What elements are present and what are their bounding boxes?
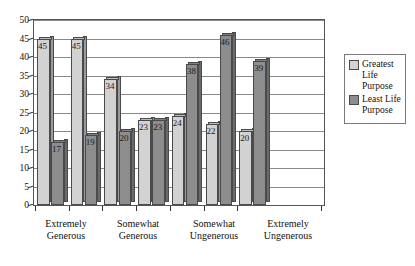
y-axis-tick-label: 45 xyxy=(3,34,29,44)
bar-value-label: 45 xyxy=(38,42,47,51)
bar-value-label: 46 xyxy=(221,38,230,47)
bar-value-label: 38 xyxy=(187,67,196,76)
bar: 46 xyxy=(220,32,233,205)
bar-value-label: 45 xyxy=(72,42,81,51)
bar: 23 xyxy=(138,117,151,205)
y-axis-tick-mark xyxy=(28,19,33,21)
bar: 17 xyxy=(51,139,64,205)
y-axis-tick-label: 40 xyxy=(3,52,29,62)
bar: 39 xyxy=(253,58,266,205)
x-axis-labels: ExtremelyGenerousSomewhatGenerousSomewha… xyxy=(20,218,350,252)
y-axis-tick-mark xyxy=(28,93,33,95)
y-axis-tick-label: 10 xyxy=(3,163,29,173)
bar: 45 xyxy=(71,36,84,206)
x-axis-tick-mark xyxy=(35,206,36,211)
legend: Greatest Life Purpose Least Life Purpose xyxy=(344,54,406,124)
legend-label-least: Least Life Purpose xyxy=(362,94,402,116)
bar: 22 xyxy=(206,121,219,205)
bar-side-face xyxy=(266,58,270,202)
bar-front-face xyxy=(104,79,117,205)
bar: 23 xyxy=(152,117,165,205)
y-axis-tick-label: 5 xyxy=(3,182,29,192)
bar-value-label: 24 xyxy=(173,119,182,128)
y-axis-tick-mark xyxy=(28,56,33,58)
x-axis-tick-mark xyxy=(69,206,70,211)
legend-label-greatest: Greatest Life Purpose xyxy=(362,59,402,92)
legend-item-least: Least Life Purpose xyxy=(349,94,402,116)
y-axis-tick-label: 50 xyxy=(3,15,29,25)
x-axis xyxy=(33,206,325,218)
bar-value-label: 17 xyxy=(52,145,61,154)
bar: 19 xyxy=(85,132,98,205)
bar-side-face xyxy=(131,128,135,202)
bar-value-label: 34 xyxy=(105,82,114,91)
bar: 20 xyxy=(239,128,252,205)
x-axis-tick-mark xyxy=(136,206,137,211)
y-axis-tick-label: 20 xyxy=(3,126,29,136)
bar-value-label: 20 xyxy=(120,134,129,143)
bar-value-label: 20 xyxy=(240,134,249,143)
y-axis-tick-mark xyxy=(28,167,33,169)
bar-front-face xyxy=(206,124,219,205)
legend-item-greatest: Greatest Life Purpose xyxy=(349,59,402,92)
legend-swatch-icon-least xyxy=(349,95,359,105)
x-axis-tick-mark xyxy=(170,206,171,211)
bars-layer: 4517451934202323243822462039 xyxy=(34,20,324,205)
bar-front-face xyxy=(152,120,165,205)
bar-front-face xyxy=(138,120,151,205)
x-axis-category-label: ExtremelyUngenerous xyxy=(242,218,334,242)
bar-side-face xyxy=(97,132,101,202)
bar: 38 xyxy=(186,61,199,205)
bar: 24 xyxy=(172,113,185,205)
y-axis-tick-label: 0 xyxy=(3,200,29,210)
bar-value-label: 23 xyxy=(153,123,162,132)
bar-value-label: 39 xyxy=(254,64,263,73)
x-axis-tick-mark xyxy=(102,206,103,211)
bar-value-label: 22 xyxy=(207,127,216,136)
y-axis-tick-label: 35 xyxy=(3,71,29,81)
bar: 34 xyxy=(104,76,117,205)
y-axis: 05101520253035404550 xyxy=(0,14,33,211)
bar-front-face xyxy=(253,61,266,205)
bar-front-face xyxy=(37,39,50,206)
bar-chart: 05101520253035404550 4517451934202323243… xyxy=(0,0,415,266)
bar: 45 xyxy=(37,36,50,206)
bar-front-face xyxy=(220,35,233,205)
legend-swatch-icon-greatest xyxy=(349,60,359,70)
y-axis-tick-label: 30 xyxy=(3,89,29,99)
bar-side-face xyxy=(198,61,202,202)
y-axis-tick-label: 25 xyxy=(3,108,29,118)
bar-side-face xyxy=(165,117,169,202)
bar: 20 xyxy=(119,128,132,205)
bar-side-face xyxy=(64,139,68,202)
bar-side-face xyxy=(232,32,236,202)
y-axis-tick-label: 15 xyxy=(3,145,29,155)
bar-front-face xyxy=(186,64,199,205)
bar-front-face xyxy=(71,39,84,206)
bar-value-label: 23 xyxy=(139,123,148,132)
x-axis-tick-mark xyxy=(204,206,205,211)
x-axis-tick-mark xyxy=(237,206,238,211)
y-axis-tick-mark xyxy=(28,130,33,132)
bar-value-label: 19 xyxy=(86,138,95,147)
x-axis-tick-mark xyxy=(321,206,322,211)
bar-front-face xyxy=(172,116,185,205)
